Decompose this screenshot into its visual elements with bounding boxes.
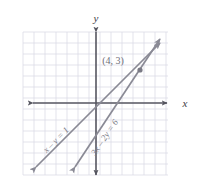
coordinate-plane-svg: (4, 3) y x x – y = 1 3x – 2y = 6 xyxy=(0,0,201,190)
y-axis-label: y xyxy=(93,12,99,24)
x-axis-label: x xyxy=(182,97,188,109)
intersection-point-label: (4, 3) xyxy=(102,55,124,67)
graph-figure: (4, 3) y x x – y = 1 3x – 2y = 6 xyxy=(0,0,201,190)
intersection-point-dot xyxy=(137,67,142,72)
